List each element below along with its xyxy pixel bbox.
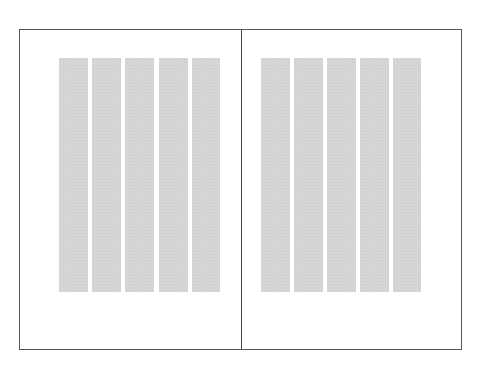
spine-divider (241, 30, 242, 349)
right-page-column-5 (393, 58, 421, 292)
left-page-column-2 (92, 58, 121, 292)
page-spread (19, 29, 462, 350)
left-page-column-4 (159, 58, 188, 292)
right-page-column-3 (327, 58, 356, 292)
left-page-column-5 (192, 58, 220, 292)
left-page-column-3 (125, 58, 154, 292)
right-page-column-1 (261, 58, 290, 292)
right-page-column-4 (360, 58, 389, 292)
right-page-column-2 (294, 58, 323, 292)
left-page-column-1 (59, 58, 88, 292)
